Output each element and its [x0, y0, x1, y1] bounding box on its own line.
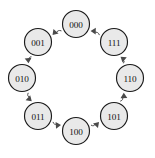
node-label-001: 001	[31, 38, 45, 48]
node-000[interactable]: 000	[63, 11, 90, 38]
arrowhead-111-to-000	[91, 28, 96, 35]
arrowhead-101-to-110	[121, 93, 128, 98]
node-010[interactable]: 010	[9, 65, 36, 92]
arrowhead-000-to-001	[53, 29, 59, 35]
arrowhead-010-to-011	[26, 95, 32, 101]
node-101[interactable]: 101	[101, 103, 128, 130]
nodes-layer: 000001010011100101110111	[9, 11, 144, 145]
node-label-010: 010	[15, 74, 29, 84]
node-011[interactable]: 011	[25, 103, 52, 130]
node-label-101: 101	[107, 112, 121, 122]
arrowhead-011-to-100	[56, 122, 61, 129]
node-label-011: 011	[32, 112, 46, 122]
node-111[interactable]: 111	[101, 29, 128, 56]
node-label-000: 000	[69, 20, 83, 30]
node-110[interactable]: 110	[117, 65, 144, 92]
node-100[interactable]: 100	[63, 118, 90, 145]
node-001[interactable]: 001	[25, 29, 52, 56]
node-label-100: 100	[69, 127, 83, 137]
arrowhead-110-to-111	[121, 57, 127, 63]
cycle-graph: 000001010011100101110111	[0, 0, 155, 158]
node-label-110: 110	[124, 74, 138, 84]
cycle-diagram-container: 000001010011100101110111	[0, 0, 155, 158]
node-label-111: 111	[108, 38, 121, 48]
arrowhead-001-to-010	[25, 58, 32, 63]
